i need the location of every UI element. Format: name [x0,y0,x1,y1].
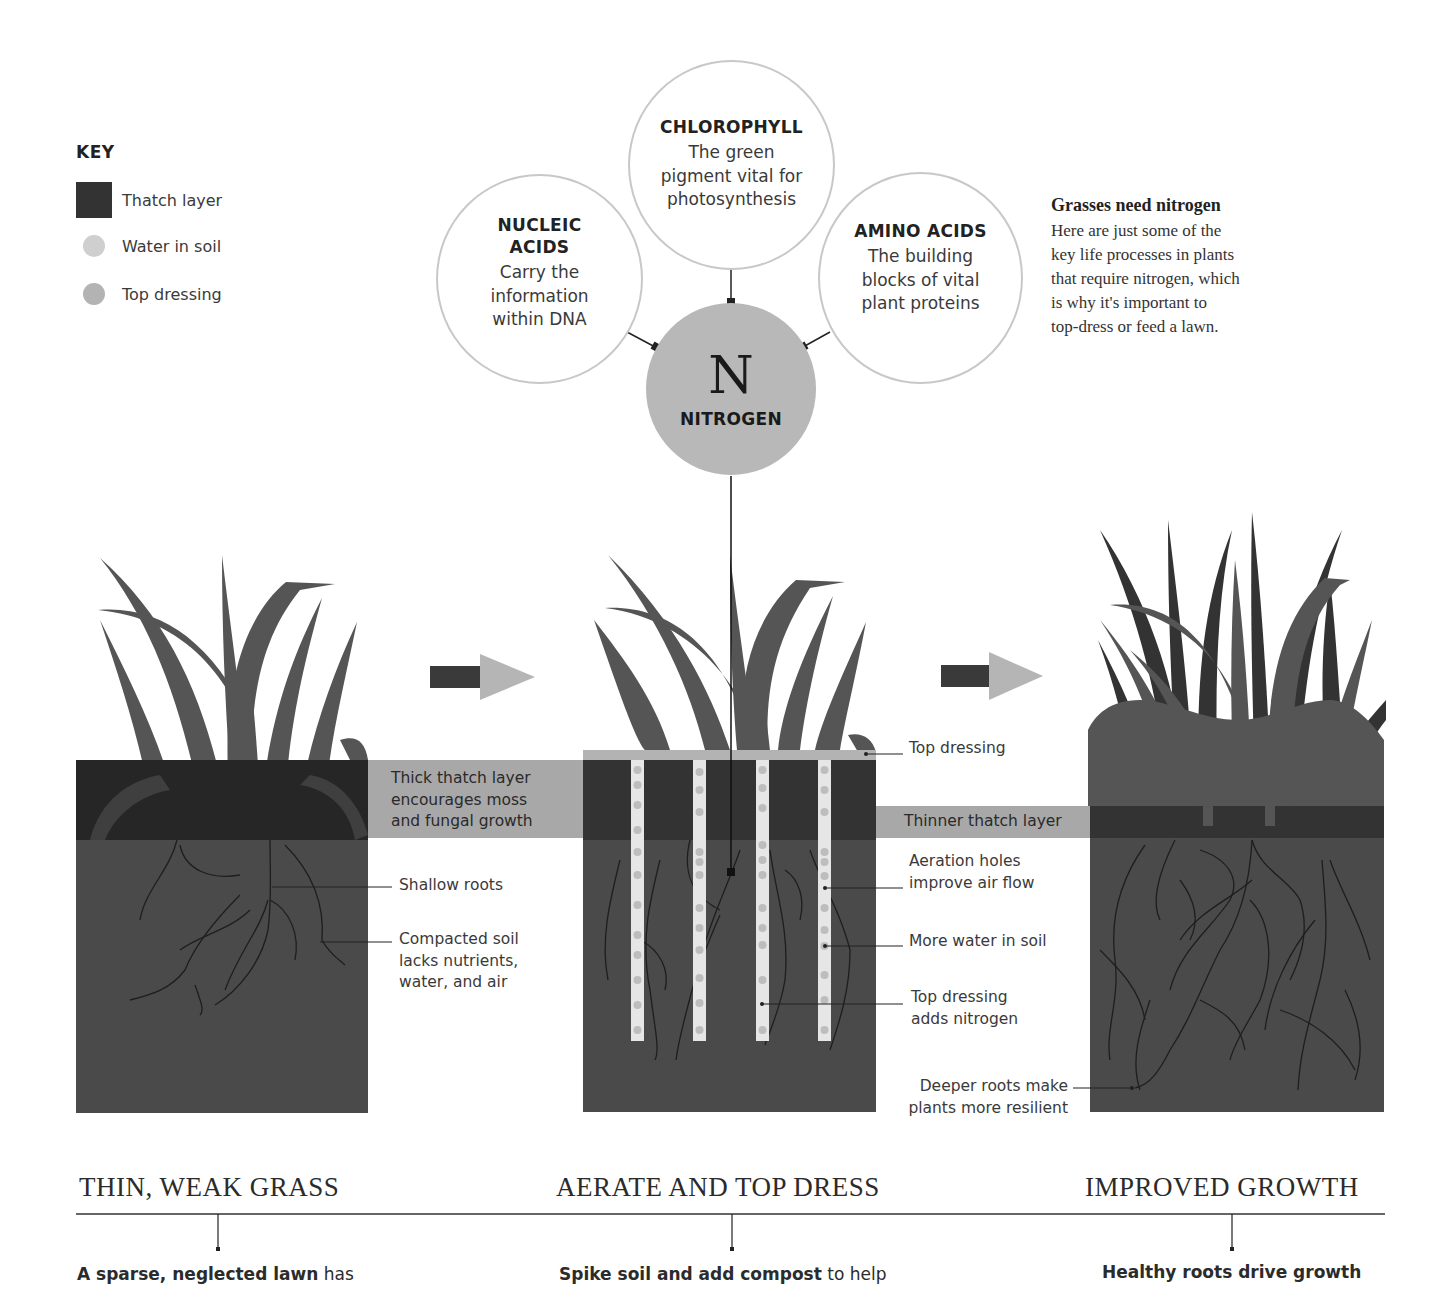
annotation-top-dressing-nitrogen: Top dressing adds nitrogen [911,987,1018,1030]
key-item-water-in-soil: Water in soil [76,228,221,264]
annotation-compacted-soil: Compacted soil lacks nutrients, water, a… [399,929,519,994]
bubble-title: NUCLEIC ACIDS [498,214,582,258]
bubble-amino-acids: AMINO ACIDS The building blocks of vital… [818,172,1023,384]
stage-heading-improved-growth: IMPROVED GROWTH [1085,1172,1359,1203]
key-title: KEY [76,142,115,162]
intro-line: that require nitrogen, which [1051,267,1301,291]
bubble-title: AMINO ACIDS [854,220,987,242]
stage-caption-aerate-top-dress: Spike soil and add compost to help [559,1264,887,1284]
annotation-top-dressing: Top dressing [909,738,1006,760]
bubble-description: The building blocks of vital plant prote… [861,245,979,315]
top-dressing-dot-icon [83,283,105,305]
key-item-top-dressing: Top dressing [76,276,222,312]
thatch-swatch-icon [76,182,112,218]
stage-caption-improved-growth: Healthy roots drive growth [1102,1262,1361,1282]
bubble-chlorophyll: CHLOROPHYLL The green pigment vital for … [628,60,835,270]
intro-line: Here are just some of the [1051,219,1301,243]
stage-caption-thin-weak-grass: A sparse, neglected lawn has [77,1264,354,1284]
key-label: Top dressing [122,285,222,304]
intro-line: key life processes in plants [1051,243,1301,267]
connector-amino-acids [803,332,830,347]
key-item-thatch-layer: Thatch layer [76,182,222,218]
key-label: Water in soil [122,237,221,256]
bubble-description: The green pigment vital for photosynthes… [661,141,803,211]
annotation-deeper-roots: Deeper roots make plants more resilient [890,1076,1068,1119]
stage-heading-aerate-top-dress: AERATE AND TOP DRESS [556,1172,880,1203]
bubble-description: Carry the information within DNA [490,261,588,331]
intro-title: Grasses need nitrogen [1051,193,1301,219]
nitrogen-circle: N NITROGEN [646,303,816,475]
stage-heading-thin-weak-grass: THIN, WEAK GRASS [79,1172,339,1203]
intro-text-block: Grasses need nitrogen Here are just some… [1051,193,1301,339]
panel-improved-growth [1073,512,1386,1112]
arrow-stage-2-to-3 [941,652,1043,700]
bubble-nucleic-acids: NUCLEIC ACIDS Carry the information with… [436,174,643,384]
intro-line: top-dress or feed a lawn. [1051,315,1301,339]
annotation-shallow-roots: Shallow roots [399,875,503,897]
water-dot-icon [83,235,105,257]
key-label: Thatch layer [122,191,222,210]
nitrogen-symbol: N [708,349,754,401]
annotation-thinner-thatch: Thinner thatch layer [904,811,1062,833]
bubble-title: CHLOROPHYLL [660,116,803,138]
arrow-stage-1-to-2 [430,654,535,700]
panel-thin-weak-grass [76,555,392,1113]
annotation-aeration-holes: Aeration holes improve air flow [909,851,1034,894]
annotation-thick-thatch: Thick thatch layer encourages moss and f… [391,768,533,833]
intro-line: is why it's important to [1051,291,1301,315]
nitrogen-label: NITROGEN [680,409,782,429]
panel-aerate-top-dress [583,476,903,1112]
annotation-more-water: More water in soil [909,931,1047,953]
